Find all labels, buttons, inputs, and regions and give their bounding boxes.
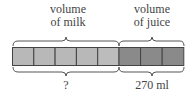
milk-bottom-brace (13, 67, 119, 76)
milk-segment (13, 48, 120, 66)
juice-bottom-brace (119, 67, 184, 76)
milk-top-brace (13, 37, 119, 46)
juice-top-brace (119, 37, 184, 46)
juice-amount-label: 270 ml (128, 79, 176, 92)
juice-segment (119, 48, 184, 66)
milk-unknown-label: ? (56, 79, 76, 92)
